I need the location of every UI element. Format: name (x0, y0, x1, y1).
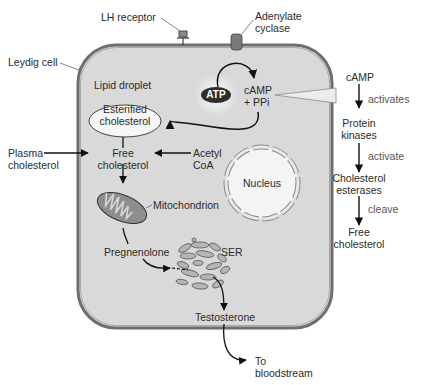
acetyl-label-1: Acetyl (193, 147, 222, 159)
panel-esterases-label-1: Cholesterol (329, 172, 389, 184)
panel-free-label-2: cholesterol (329, 238, 389, 250)
adenylate-cyclase-icon (231, 34, 242, 50)
adenylate-label-2: cyclase (255, 22, 290, 34)
bloodstream-label-1: To (255, 355, 266, 367)
camp-label-1: cAMP (244, 84, 272, 96)
free-cholesterol-label-2: cholesterol (90, 159, 156, 171)
panel-activates-label: activates (368, 93, 409, 105)
free-cholesterol-label-1: Free (90, 147, 156, 159)
pregnenolone-label: Pregnenolone (104, 246, 169, 258)
camp-label-2: + PPi (244, 96, 269, 108)
acetyl-label-2: CoA (193, 159, 213, 171)
lipid-droplet-label: Lipid droplet (94, 79, 151, 91)
esterified-label-1: Esterified (93, 103, 157, 115)
nucleus-label: Nucleus (232, 177, 292, 189)
lh-receptor-label: LH receptor (101, 11, 156, 23)
bloodstream-label-2: bloodstream (255, 367, 313, 379)
esterified-label-2: cholesterol (93, 115, 157, 127)
panel-protein-label-1: Protein (331, 117, 387, 129)
panel-activate-label: activate (368, 150, 404, 162)
panel-esterases-label-2: esterases (329, 184, 389, 196)
testosterone-label: Testosterone (188, 311, 262, 323)
panel-cleave-label: cleave (368, 203, 398, 215)
ser-label: SER (221, 246, 243, 258)
plasma-label-1: Plasma (8, 147, 43, 159)
mitochondrion-label: Mitochondrion (153, 199, 219, 211)
panel-protein-label-2: kinases (331, 129, 387, 141)
lh-receptor-icon (177, 31, 189, 45)
panel-free-label-1: Free (329, 226, 389, 238)
leydig-cell-label: Leydig cell (8, 56, 58, 68)
adenylate-label-1: Adenylate (255, 10, 302, 22)
plasma-label-2: cholesterol (8, 159, 59, 171)
panel-camp-label: cAMP (336, 71, 384, 83)
atp-label: ATP (201, 89, 231, 101)
